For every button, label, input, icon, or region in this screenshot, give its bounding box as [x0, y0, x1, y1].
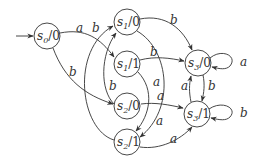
edge-s20-a-s31 [141, 103, 183, 108]
edge-label: a [157, 89, 164, 103]
edge-s30-b-s31 [202, 75, 204, 101]
state-s0-0: s0/0 [34, 23, 60, 49]
edge-label: b [240, 106, 248, 120]
edge-label: b [208, 79, 216, 93]
edge-label: b [170, 13, 178, 27]
state-s3-0: s3/0 [185, 50, 211, 76]
state-s1-0: s1/0 [114, 9, 140, 35]
edge-label: a [170, 132, 177, 146]
svg-text:s1/0: s1/0 [117, 15, 140, 31]
edge-label: a [240, 55, 247, 69]
edge-s11-b-s30 [140, 58, 184, 61]
edge-s31-b-self [209, 105, 232, 120]
edge-label: a [181, 79, 188, 93]
edge-label: a [153, 75, 160, 89]
state-s1-1: s1/1 [114, 51, 140, 77]
state-diagram: a b b a b a a b b a b a a b s0/0 s1/0 s1… [0, 0, 263, 162]
edge-label: a [76, 21, 83, 35]
state-s3-1: s3/1 [184, 101, 210, 127]
edge-s20-b-s10 [104, 33, 116, 104]
edge-s30-a-self [210, 53, 232, 68]
svg-text:s3/1: s3/1 [187, 107, 210, 123]
svg-text:s1/1: s1/1 [117, 57, 140, 73]
edge-label: b [150, 45, 158, 59]
edge-label: b [69, 65, 77, 79]
edge-s31-a-s30 [190, 76, 192, 102]
svg-text:s2/0: s2/0 [117, 99, 140, 115]
svg-text:s0/0: s0/0 [37, 29, 60, 45]
state-s2-1: s2/1 [114, 129, 140, 155]
state-s2-0: s2/0 [114, 93, 140, 119]
edge-label: b [109, 79, 117, 93]
edge-label: b [92, 21, 100, 35]
svg-text:s2/1: s2/1 [117, 135, 140, 151]
edge-label: a [156, 114, 163, 128]
edge-s10-b-s30 [140, 18, 192, 50]
svg-text:s3/0: s3/0 [188, 56, 211, 72]
